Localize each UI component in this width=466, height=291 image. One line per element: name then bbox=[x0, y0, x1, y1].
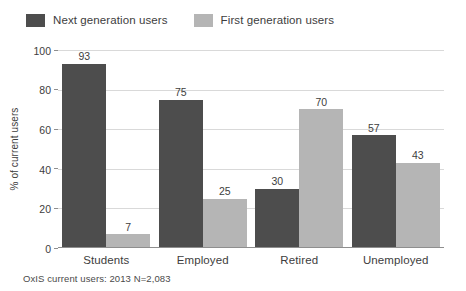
bar-students-first-generation[interactable]: 7 bbox=[106, 50, 150, 248]
legend-swatch-next-generation-icon bbox=[26, 14, 45, 27]
legend-label-next-generation: Next generation users bbox=[53, 14, 168, 26]
x-label-unemployed: Unemployed bbox=[352, 254, 440, 270]
chart-legend: Next generation users First generation u… bbox=[26, 11, 334, 29]
y-tick-label: 60 bbox=[39, 124, 51, 135]
y-tick-label: 40 bbox=[39, 164, 51, 175]
bar-rect bbox=[299, 109, 343, 248]
bar-rect bbox=[106, 234, 150, 248]
bar-rect bbox=[203, 199, 247, 249]
bar-groups: 93 7 75 25 bbox=[58, 50, 444, 248]
bar-chart: Next generation users First generation u… bbox=[0, 0, 466, 291]
bar-group-employed: 75 25 bbox=[159, 50, 247, 248]
legend-label-first-generation: First generation users bbox=[221, 14, 334, 26]
bar-value-label: 43 bbox=[396, 150, 440, 161]
x-label-employed: Employed bbox=[159, 254, 247, 270]
chart-footnote: OxIS current users: 2013 N=2,083 bbox=[23, 273, 171, 284]
bar-unemployed-first-generation[interactable]: 43 bbox=[396, 50, 440, 248]
legend-item-first-generation: First generation users bbox=[194, 14, 334, 27]
bar-value-label: 25 bbox=[203, 186, 247, 197]
x-label-students: Students bbox=[62, 254, 150, 270]
bar-group-unemployed: 57 43 bbox=[352, 50, 440, 248]
bar-value-label: 30 bbox=[255, 176, 299, 187]
y-tick-label: 100 bbox=[33, 45, 51, 56]
bar-group-students: 93 7 bbox=[62, 50, 150, 248]
bar-rect bbox=[62, 64, 106, 248]
y-tick-label: 80 bbox=[39, 85, 51, 96]
bar-value-label: 7 bbox=[106, 222, 150, 233]
legend-item-next-generation: Next generation users bbox=[26, 14, 168, 27]
x-axis-line bbox=[58, 247, 444, 248]
bar-students-next-generation[interactable]: 93 bbox=[62, 50, 106, 248]
y-axis-ticks: 100 80 60 40 20 0 bbox=[0, 50, 58, 248]
plot-area: 93 7 75 25 bbox=[58, 50, 444, 248]
bar-rect bbox=[352, 135, 396, 248]
bar-group-retired: 30 70 bbox=[255, 50, 343, 248]
bar-value-label: 75 bbox=[159, 87, 203, 98]
bar-retired-next-generation[interactable]: 30 bbox=[255, 50, 299, 248]
bar-retired-first-generation[interactable]: 70 bbox=[299, 50, 343, 248]
y-tick-label: 20 bbox=[39, 204, 51, 215]
bar-value-label: 57 bbox=[352, 123, 396, 134]
bar-employed-first-generation[interactable]: 25 bbox=[203, 50, 247, 248]
bar-unemployed-next-generation[interactable]: 57 bbox=[352, 50, 396, 248]
bar-value-label: 93 bbox=[62, 51, 106, 62]
legend-swatch-first-generation-icon bbox=[194, 14, 213, 27]
x-axis-labels: Students Employed Retired Unemployed bbox=[58, 254, 444, 270]
bar-rect bbox=[159, 100, 203, 249]
bar-value-label: 70 bbox=[299, 97, 343, 108]
bar-rect bbox=[396, 163, 440, 248]
x-label-retired: Retired bbox=[255, 254, 343, 270]
bar-rect bbox=[255, 189, 299, 248]
y-tick-label: 0 bbox=[45, 243, 51, 254]
bar-employed-next-generation[interactable]: 75 bbox=[159, 50, 203, 248]
